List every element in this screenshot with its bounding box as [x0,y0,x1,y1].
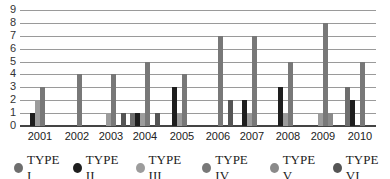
y-tick-label: 3 [6,81,16,92]
bar-type-vi-2003 [121,113,126,126]
x-tick-label: 2004 [127,130,163,142]
y-tick-label: 4 [6,68,16,79]
x-tick-label: 2006 [200,130,236,142]
x-tick-label: 2008 [270,130,306,142]
bar-type-iv-2002 [77,74,82,126]
bar-type-iv-2006 [218,36,223,126]
bar-type-iv-2005 [182,74,187,126]
x-tick-label: 2007 [234,130,270,142]
y-tick-label: 6 [6,43,16,54]
y-tick-label: 8 [6,17,16,28]
y-tick-label: 9 [6,4,16,15]
bar-type-iv-2010 [360,62,365,126]
legend-label: TYPE VI [346,152,390,179]
bar-type-v-2009 [328,113,333,126]
legend-dot-icon [270,163,279,173]
x-tick-label: 2003 [93,130,129,142]
bar-type-iv-2008 [288,62,293,126]
bar-type-vi-2004 [155,113,160,126]
x-tick-label: 2010 [342,130,378,142]
bar-type-iv-2007 [252,36,257,126]
x-tick-label: 2005 [164,130,200,142]
y-tick-label: 2 [6,94,16,105]
x-tick-label: 2001 [22,130,58,142]
legend-item: TYPE II [73,152,126,179]
legend-item: TYPE IV [202,152,259,179]
y-tick-label: 7 [6,30,16,41]
legend-item: TYPE VI [333,152,390,179]
bar-type-vi-2006 [228,100,233,126]
bar-type-iv-2004 [145,62,150,126]
legend-label: TYPE V [283,152,323,179]
bar-type-ii-2010 [350,100,355,126]
legend-item: TYPE I [14,152,63,179]
x-tick-label: 2009 [305,130,341,142]
x-tick-label: 2002 [59,130,95,142]
legend-label: TYPE IV [215,152,259,179]
bar-type-iv-2009 [323,23,328,126]
chart-legend: TYPE ITYPE IITYPE IIITYPE IVTYPE VTYPE V… [14,152,390,179]
legend-label: TYPE I [27,152,63,179]
legend-dot-icon [202,163,211,173]
bar-type-iv-2003 [111,74,116,126]
bar-type-iv-2001 [40,87,45,126]
y-tick-label: 5 [6,56,16,67]
y-tick-label: 0 [6,120,16,131]
legend-item: TYPE V [270,152,323,179]
gridline [20,10,376,11]
legend-label: TYPE III [149,152,193,179]
legend-dot-icon [333,163,342,173]
y-tick-label: 1 [6,107,16,118]
legend-item: TYPE III [136,152,193,179]
legend-dot-icon [73,163,82,173]
legend-dot-icon [136,163,145,173]
legend-dot-icon [14,163,23,173]
bar-chart: 0123456789 20012002200320042005200620072… [0,0,390,179]
legend-label: TYPE II [86,152,126,179]
